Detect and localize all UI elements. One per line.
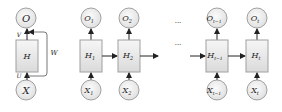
- step-t-minus-1: Ot−1 Ht−1 Xt−1: [190, 8, 245, 100]
- ellipsis-middle: ···: [175, 41, 182, 49]
- hidden-label: H: [23, 52, 32, 61]
- w-arrowhead: [28, 29, 34, 35]
- ellipsis-top: ···: [175, 19, 182, 27]
- step-1: O1 H1 X1: [80, 8, 117, 100]
- rnn-diagram: O H X V U W O1 H1 X1 O2 H2 X2: [0, 0, 282, 112]
- input-label: X: [21, 85, 30, 96]
- w-label: W: [50, 49, 58, 57]
- step-2: O2 H2 X2: [118, 8, 158, 100]
- step-t: Ot Ht Xt: [246, 8, 268, 100]
- output-label: O: [22, 13, 30, 24]
- u-label: U: [16, 72, 22, 79]
- v-label: V: [17, 31, 22, 38]
- folded-rnn: O H X V U W: [16, 8, 58, 100]
